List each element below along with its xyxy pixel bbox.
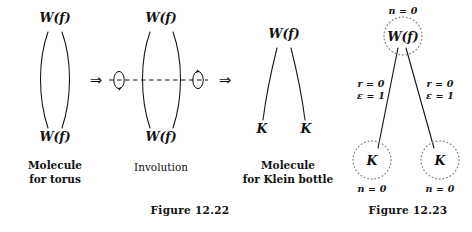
klein-caption-line1: Molecule bbox=[261, 158, 315, 172]
klein-right-arc bbox=[291, 48, 305, 120]
rotation-indicator-right bbox=[193, 69, 203, 88]
torus-left-arc bbox=[41, 32, 49, 128]
root-annotation-n: n = 0 bbox=[388, 6, 417, 16]
edge-right-label-r: r = 0 bbox=[426, 79, 453, 89]
edge-left-label-r: r = 0 bbox=[357, 79, 384, 89]
rotation-arrowhead-right bbox=[196, 69, 200, 73]
edge-right-label-epsilon: ε = 1 bbox=[426, 91, 454, 101]
torus-caption-line1: Molecule bbox=[28, 158, 82, 172]
rotation-indicator-left bbox=[114, 71, 124, 90]
torus-caption-line2: for torus bbox=[29, 172, 81, 186]
implies-arrow-1: ⇒ bbox=[90, 73, 103, 88]
molecule-klein-graph bbox=[263, 48, 305, 120]
figure-12-22-caption: Figure 12.22 bbox=[151, 205, 230, 216]
tree-leaf-right-label: K bbox=[435, 155, 446, 168]
tree-leaf-right-annotation: n = 0 bbox=[425, 184, 454, 194]
implies-arrow-2: ⇒ bbox=[219, 73, 232, 88]
torus-bottom-vertex-label: W(f) bbox=[39, 131, 70, 144]
klein-bottom-right-vertex-label: K bbox=[301, 123, 312, 136]
tree-root-label: W(f) bbox=[387, 31, 418, 44]
rotation-arrowhead-left bbox=[118, 87, 122, 91]
involution-top-vertex-label: W(f) bbox=[145, 12, 176, 25]
edge-left-label-epsilon: ε = 1 bbox=[357, 91, 385, 101]
klein-left-arc bbox=[263, 48, 277, 120]
involution-bottom-vertex-label: W(f) bbox=[145, 131, 176, 144]
klein-caption-line2: for Klein bottle bbox=[243, 172, 334, 186]
torus-right-arc bbox=[62, 32, 70, 128]
figure-plate: W(f) W(f) Molecule for torus ⇒ W(f) W(f)… bbox=[0, 0, 472, 232]
tree-leaf-left-label: K bbox=[367, 155, 378, 168]
klein-bottom-left-vertex-label: K bbox=[257, 123, 268, 136]
figure-12-23-caption: Figure 12.23 bbox=[369, 205, 448, 216]
klein-top-vertex-label: W(f) bbox=[268, 28, 299, 41]
involution-caption-line1: Involution bbox=[134, 160, 188, 174]
tree-leaf-left-annotation: n = 0 bbox=[357, 184, 386, 194]
molecule-torus-graph bbox=[41, 32, 70, 128]
torus-top-vertex-label: W(f) bbox=[39, 12, 70, 25]
